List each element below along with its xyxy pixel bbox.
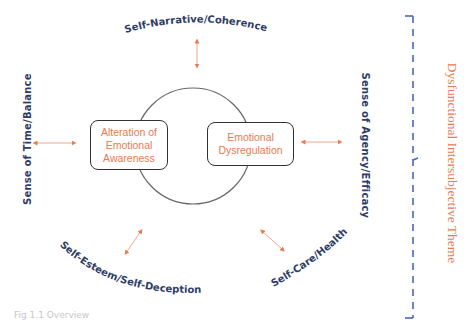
- box-line: Emotional: [218, 131, 282, 144]
- theme-bottom-right-label: Self-Care/Health: [269, 226, 349, 289]
- box-line: Emotional: [101, 139, 157, 152]
- theme-right-label: Sense of Agency/Efficacy: [360, 73, 371, 213]
- bracket-theme-label: Dysfunctional Intersubjective Theme: [444, 48, 460, 278]
- theme-left-label: Sense of Time/Balance: [22, 80, 33, 205]
- arrow-bottom-left: [126, 231, 141, 253]
- box-line: Awareness: [101, 152, 157, 165]
- box-line: Alteration of: [101, 126, 157, 139]
- box-line: Dysregulation: [218, 144, 282, 157]
- svg-text:Self-Narrative/Coherence: Self-Narrative/Coherence: [123, 13, 268, 34]
- core-box-alteration-of-emotional-awareness: Alteration of Emotional Awareness: [90, 120, 168, 170]
- footer-caption: Fig 1.1 Overview: [14, 310, 89, 320]
- svg-text:Self-Care/Health: Self-Care/Health: [269, 226, 349, 289]
- arrow-bottom-right: [262, 231, 283, 250]
- theme-bracket: [405, 16, 418, 318]
- core-box-emotional-dysregulation: Emotional Dysregulation: [207, 122, 294, 166]
- theme-top-label: Self-Narrative/Coherence: [123, 13, 268, 34]
